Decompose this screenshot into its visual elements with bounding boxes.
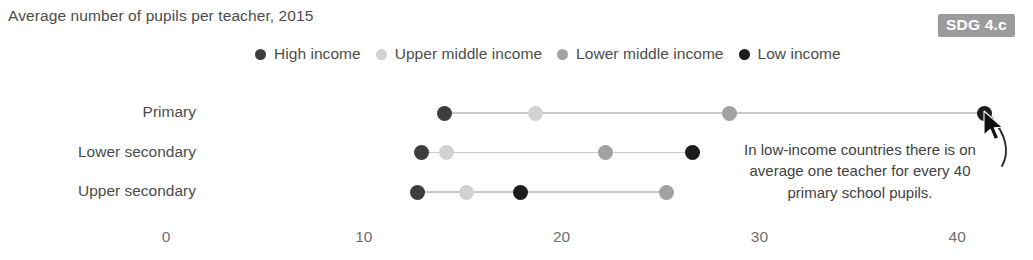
x-axis-tick-label: 20 [553,228,570,246]
connector-line-row-2 [417,191,666,193]
x-axis-tick-label: 30 [751,228,768,246]
data-point[interactable] [437,106,452,121]
annotation-callout: In low-income countries there is on aver… [726,139,994,203]
data-point[interactable] [439,145,454,160]
data-point[interactable] [659,185,674,200]
x-axis-tick-label: 40 [949,228,966,246]
category-label: Lower secondary [0,143,196,161]
category-label: Primary [0,103,196,121]
connector-line-row-0 [445,112,985,114]
data-point[interactable] [598,145,613,160]
data-point[interactable] [513,185,528,200]
connector-line-row-1 [421,152,692,154]
x-axis-tick-label: 10 [355,228,372,246]
mouse-pointer-icon [982,110,1008,144]
category-label: Upper secondary [0,182,196,200]
data-point[interactable] [722,106,737,121]
data-point[interactable] [410,185,425,200]
data-point[interactable] [459,185,474,200]
plot-area [0,0,1033,260]
chart-container: Average number of pupils per teacher, 20… [0,0,1033,260]
x-axis-tick-label: 0 [162,228,171,246]
data-point[interactable] [528,106,543,121]
data-point[interactable] [414,145,429,160]
data-point[interactable] [685,145,700,160]
